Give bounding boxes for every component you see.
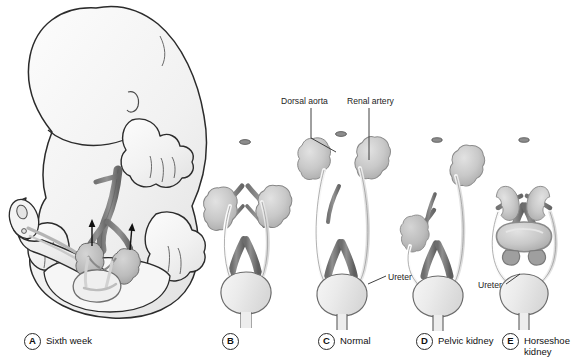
panel-e-lower-pole-left	[503, 250, 520, 265]
panel-c-urethra-fill	[337, 314, 347, 330]
panel-letter-c: C	[318, 333, 335, 350]
panel-b-bladder	[221, 272, 271, 314]
panel-caption-b: B	[222, 333, 244, 350]
panel-b-urethra-fill	[241, 312, 251, 328]
umbilical-vein-lumen	[22, 229, 27, 234]
panel-e-bladder	[500, 274, 548, 315]
panel-c-aorta-top	[336, 132, 347, 137]
panel-d-aorta-top	[432, 138, 442, 143]
panel-caption-c: C Normal	[318, 333, 371, 350]
panel-letter-b: B	[222, 333, 239, 350]
panel-c-bladder	[317, 274, 367, 316]
panel-b-aorta-top	[240, 140, 251, 145]
panel-e-kidney-isthmus	[497, 222, 552, 252]
panel-e-urethra-fill	[519, 313, 529, 330]
panel-e-aorta-top	[519, 138, 529, 143]
panel-caption-a: A Sixth week	[24, 333, 92, 350]
annotation-ureter-normal: Ureter	[388, 272, 412, 282]
panel-label-c: Normal	[340, 333, 371, 346]
panel-letter-d: D	[416, 333, 433, 350]
panel-e-lower-pole-right	[528, 250, 545, 265]
panel-label-d: Pelvic kidney	[438, 333, 493, 346]
panel-caption-d: D Pelvic kidney	[416, 333, 493, 350]
annotation-ureter-horseshoe: Ureter	[478, 280, 502, 290]
annotation-dorsal-aorta: Dorsal aorta	[281, 96, 328, 106]
panel-d-urethra-fill	[433, 315, 443, 331]
panel-label-a: Sixth week	[46, 333, 92, 346]
annotation-renal-artery: Renal artery	[347, 96, 394, 106]
kidney-ascent-illustration	[0, 0, 583, 362]
panel-d-bladder	[413, 276, 463, 317]
panel-caption-e: E Horseshoe kidney	[502, 333, 570, 357]
panel-label-e: Horseshoe kidney	[524, 333, 570, 357]
panel-letter-a: A	[24, 333, 41, 350]
panel-letter-e: E	[502, 333, 519, 350]
